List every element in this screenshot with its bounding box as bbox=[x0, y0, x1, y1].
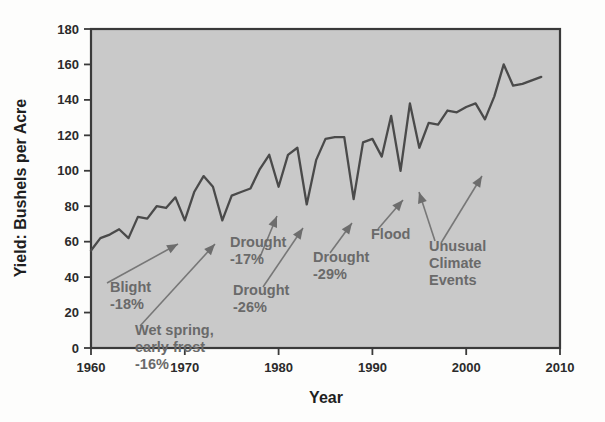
y-tick-label: 80 bbox=[65, 199, 79, 214]
x-tick-label: 1990 bbox=[358, 360, 387, 375]
y-tick-label: 0 bbox=[72, 341, 79, 356]
annotation-label-line: Drought bbox=[233, 282, 290, 298]
y-tick-label: 40 bbox=[65, 270, 79, 285]
y-tick-label: 20 bbox=[65, 305, 79, 320]
x-tick-label: 1980 bbox=[264, 360, 293, 375]
annotation-label-line: Wet spring, bbox=[135, 322, 214, 338]
annotation-label-line: early frost bbox=[135, 339, 205, 355]
y-axis: 020406080100120140160180 bbox=[57, 22, 91, 356]
x-tick-label: 2010 bbox=[546, 360, 575, 375]
annotation-label-line: Climate bbox=[429, 255, 481, 271]
annotation-label-line: Flood bbox=[371, 226, 410, 242]
y-tick-label: 100 bbox=[57, 163, 79, 178]
annotation-label-line: Unusual bbox=[429, 238, 486, 254]
y-tick-label: 180 bbox=[57, 22, 79, 37]
annotation-label-line: Drought bbox=[230, 234, 287, 250]
y-tick-label: 60 bbox=[65, 234, 79, 249]
x-axis-title: Year bbox=[309, 389, 343, 406]
y-tick-label: 140 bbox=[57, 92, 79, 107]
annotation-label-line: -16% bbox=[135, 356, 169, 372]
annotation-label-line: -17% bbox=[230, 251, 264, 267]
annotation-label-line: Events bbox=[429, 272, 477, 288]
annotation-label-line: Drought bbox=[313, 249, 370, 265]
annotation-label-line: -18% bbox=[110, 296, 144, 312]
plot-area-background bbox=[91, 29, 560, 348]
y-axis-title: Yield: Bushels per Acre bbox=[12, 99, 29, 278]
x-tick-label: 1960 bbox=[77, 360, 106, 375]
annotation-label-line: Blight bbox=[110, 279, 151, 295]
annotation-label-flood: Flood bbox=[371, 226, 410, 242]
annotation-label-line: -29% bbox=[313, 266, 347, 282]
yield-line-chart: 020406080100120140160180 196019701980199… bbox=[0, 0, 605, 422]
figure-container: 020406080100120140160180 196019701980199… bbox=[0, 0, 605, 422]
x-tick-label: 1970 bbox=[170, 360, 199, 375]
annotation-label-line: -26% bbox=[233, 299, 267, 315]
y-tick-label: 120 bbox=[57, 128, 79, 143]
y-tick-label: 160 bbox=[57, 57, 79, 72]
x-tick-label: 2000 bbox=[452, 360, 481, 375]
